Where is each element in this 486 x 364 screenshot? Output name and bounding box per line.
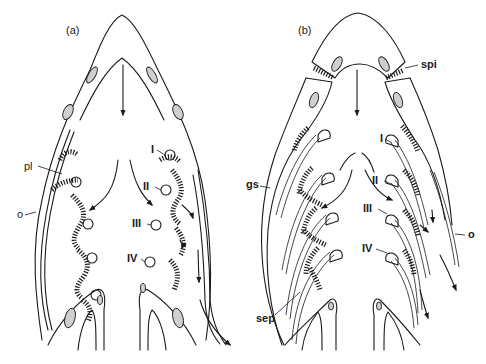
panel-a-operculum-right xyxy=(198,170,226,345)
panel-a-operculum-left xyxy=(41,130,70,330)
panel-b-cartilage xyxy=(377,302,382,310)
leader-line xyxy=(157,150,165,155)
panel-a-filament xyxy=(72,195,84,248)
label-arch-i-a: I xyxy=(151,143,154,155)
gill-anatomy-figure: (a) xyxy=(0,0,486,364)
label-arch-ii-b: II xyxy=(372,174,378,186)
panel-b-flow-arrow-gill xyxy=(432,210,433,222)
label-o-b: o xyxy=(468,228,475,240)
label-arch-ii-a: II xyxy=(143,180,149,192)
label-sep: sep xyxy=(256,312,275,324)
panel-a-flow-arrow-gill xyxy=(182,205,193,218)
panel-a-cartilage xyxy=(98,296,103,305)
panel-a-cartilage xyxy=(63,307,78,329)
panel-a-filament xyxy=(160,157,180,162)
leader-line-o-a xyxy=(25,212,36,215)
leader-line xyxy=(141,259,145,262)
panel-b-flow-arrow-exit xyxy=(440,255,456,290)
panel-a-arch-node xyxy=(161,185,171,195)
panel-b-flow-arrow-exit xyxy=(420,290,428,318)
panel-a-hyoid-left-inner xyxy=(78,310,96,350)
panel-a-label: (a) xyxy=(66,24,79,36)
panel-a-arch-node xyxy=(83,219,93,229)
panel-b-left-gills xyxy=(276,128,342,344)
label-o-a: o xyxy=(17,208,23,220)
label-arch-iv-a: IV xyxy=(127,252,138,264)
panel-a: (a) xyxy=(17,15,230,350)
leader-line-spi xyxy=(405,65,418,68)
panel-b-inner-right xyxy=(362,153,374,172)
panel-b-cartilage xyxy=(308,91,321,109)
panel-b: (b) xyxy=(246,13,475,350)
label-pl: pl xyxy=(24,160,33,172)
panel-b-label: (b) xyxy=(298,24,311,36)
panel-b-cartilage xyxy=(329,302,334,310)
label-arch-iii-b: III xyxy=(363,202,372,214)
panel-b-spiracle-left xyxy=(314,68,334,78)
label-arch-i-b: I xyxy=(380,132,383,144)
panel-a-operculum-left-inner xyxy=(45,132,74,330)
leader-line xyxy=(147,224,151,225)
panel-a-filament xyxy=(60,152,78,160)
panel-a-filament xyxy=(170,260,177,290)
panel-a-cartilage xyxy=(84,65,99,84)
panel-a-flow-arrow-out xyxy=(198,250,199,282)
panel-a-arch-node xyxy=(151,220,161,230)
panel-b-head-cap xyxy=(312,13,405,78)
panel-a-flow-arrow-left xyxy=(90,160,118,210)
panel-b-cartilage xyxy=(392,91,405,109)
panel-a-arch-node xyxy=(145,257,155,267)
leader-line-gs xyxy=(260,186,270,188)
label-gs: gs xyxy=(246,178,259,190)
panel-a-cartilage xyxy=(141,284,146,293)
panel-a-cartilage xyxy=(171,103,186,121)
panel-b-flow-arrow-right xyxy=(365,170,392,200)
label-arch-iii-a: III xyxy=(132,217,141,229)
label-arch-iv-b: IV xyxy=(362,242,373,254)
panel-a-operculum-right-inner xyxy=(193,175,220,344)
panel-a-filament xyxy=(176,228,183,256)
panel-a-filament xyxy=(52,180,78,190)
panel-b-left-outline xyxy=(262,78,306,345)
panel-a-arch-node xyxy=(87,253,97,263)
panel-a-inner-outline xyxy=(80,58,164,120)
panel-a-filament xyxy=(77,250,87,298)
leader-line xyxy=(378,209,387,214)
panel-a-outer-outline xyxy=(35,15,210,340)
panel-b-hyoid-right-inner xyxy=(384,312,404,350)
label-spi: spi xyxy=(421,58,437,70)
panel-b-inner-left xyxy=(340,153,355,170)
panel-b-flow-arrow-gill xyxy=(420,225,428,232)
panel-a-filament xyxy=(172,170,181,224)
panel-b-flow-arrow-left xyxy=(322,170,352,208)
leader-line xyxy=(155,187,161,190)
panel-a-arch-node xyxy=(165,150,175,160)
panel-a-hyoid-right-inner xyxy=(148,310,166,350)
panel-b-right-outline xyxy=(410,78,452,225)
leader-line-o-b xyxy=(455,234,465,235)
leader-line xyxy=(376,249,387,253)
